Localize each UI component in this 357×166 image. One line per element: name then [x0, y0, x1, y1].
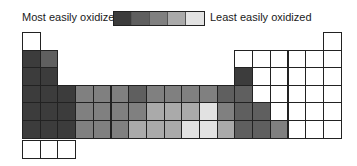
element-cell-r6-c14 — [252, 120, 271, 139]
element-cell-r3-c15 — [270, 67, 289, 86]
element-cell-r3-c13 — [234, 67, 253, 86]
element-cell-r6-c1 — [22, 120, 41, 139]
element-cell-r3-c1 — [22, 67, 41, 86]
element-cell-r4-c11 — [199, 85, 218, 104]
element-cell-r5-c5 — [93, 102, 112, 121]
legend-swatch — [114, 12, 132, 25]
element-cell-r5-c16 — [288, 102, 307, 121]
element-cell-r6-c18 — [323, 120, 342, 139]
legend-swatch — [132, 12, 150, 25]
element-cell-r4-c9 — [164, 85, 183, 104]
element-cell-r3-c2 — [40, 67, 59, 86]
element-cell-r7-c3 — [57, 140, 76, 159]
element-cell-r6-c3 — [57, 120, 76, 139]
element-cell-r4-c5 — [93, 85, 112, 104]
element-cell-r3-c17 — [305, 67, 324, 86]
element-cell-r4-c4 — [75, 85, 94, 104]
element-cell-r6-c10 — [181, 120, 200, 139]
element-cell-r2-c15 — [270, 50, 289, 69]
element-cell-r5-c2 — [40, 102, 59, 121]
element-cell-r5-c4 — [75, 102, 94, 121]
element-cell-r3-c14 — [252, 67, 271, 86]
element-cell-r4-c13 — [234, 85, 253, 104]
element-cell-r4-c14 — [252, 85, 271, 104]
element-cell-r7-c2 — [40, 140, 59, 159]
element-cell-r2-c13 — [234, 50, 253, 69]
legend-gradient-bar — [113, 11, 205, 26]
element-cell-r5-c12 — [217, 102, 236, 121]
element-cell-r6-c12 — [217, 120, 236, 139]
element-cell-r4-c17 — [305, 85, 324, 104]
element-cell-r4-c18 — [323, 85, 342, 104]
element-cell-r6-c9 — [164, 120, 183, 139]
element-cell-r5-c15 — [270, 102, 289, 121]
element-cell-r4-c2 — [40, 85, 59, 104]
legend-swatch — [186, 12, 204, 25]
element-cell-r6-c5 — [93, 120, 112, 139]
element-cell-r5-c17 — [305, 102, 324, 121]
element-cell-r2-c16 — [288, 50, 307, 69]
element-cell-r1-c18 — [323, 32, 342, 51]
element-cell-r6-c13 — [234, 120, 253, 139]
element-cell-r5-c18 — [323, 102, 342, 121]
element-cell-r2-c17 — [305, 50, 324, 69]
element-cell-r2-c14 — [252, 50, 271, 69]
element-cell-r4-c7 — [128, 85, 147, 104]
element-cell-r4-c12 — [217, 85, 236, 104]
element-cell-r5-c3 — [57, 102, 76, 121]
element-cell-r3-c16 — [288, 67, 307, 86]
element-cell-r5-c7 — [128, 102, 147, 121]
element-cell-r5-c8 — [146, 102, 165, 121]
legend-swatch — [168, 12, 186, 25]
element-cell-r3-c18 — [323, 67, 342, 86]
legend-swatch — [150, 12, 168, 25]
element-cell-r2-c1 — [22, 50, 41, 69]
element-cell-r4-c1 — [22, 85, 41, 104]
element-cell-r2-c18 — [323, 50, 342, 69]
element-cell-r6-c8 — [146, 120, 165, 139]
element-cell-r5-c6 — [111, 102, 130, 121]
element-cell-r6-c6 — [111, 120, 130, 139]
element-cell-r7-c1 — [22, 140, 41, 159]
element-cell-r2-c2 — [40, 50, 59, 69]
element-cell-r4-c15 — [270, 85, 289, 104]
element-cell-r5-c10 — [181, 102, 200, 121]
element-cell-r6-c11 — [199, 120, 218, 139]
element-cell-r6-c15 — [270, 120, 289, 139]
element-cell-r5-c9 — [164, 102, 183, 121]
element-cell-r6-c17 — [305, 120, 324, 139]
element-cell-r5-c14 — [252, 102, 271, 121]
element-cell-r1-c1 — [22, 32, 41, 51]
legend-most-easily-label: Most easily oxidized — [22, 11, 120, 24]
element-cell-r4-c16 — [288, 85, 307, 104]
element-cell-r6-c16 — [288, 120, 307, 139]
element-cell-r4-c10 — [181, 85, 200, 104]
element-cell-r4-c8 — [146, 85, 165, 104]
element-cell-r5-c13 — [234, 102, 253, 121]
element-cell-r4-c6 — [111, 85, 130, 104]
element-cell-r6-c7 — [128, 120, 147, 139]
element-cell-r5-c11 — [199, 102, 218, 121]
element-cell-r5-c1 — [22, 102, 41, 121]
legend-least-easily-label: Least easily oxidized — [210, 11, 312, 24]
element-cell-r6-c4 — [75, 120, 94, 139]
element-cell-r4-c3 — [57, 85, 76, 104]
element-cell-r6-c2 — [40, 120, 59, 139]
